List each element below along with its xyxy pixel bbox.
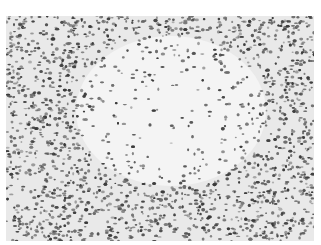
micrograph-image — [6, 16, 314, 241]
tissue-field — [6, 16, 314, 241]
